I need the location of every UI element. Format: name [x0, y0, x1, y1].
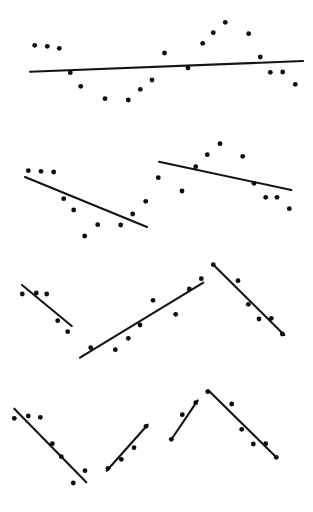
- data-point-3-11: [173, 312, 178, 317]
- data-point-3-14: [211, 262, 216, 267]
- data-point-3-8: [126, 336, 131, 341]
- data-point-3-5: [65, 329, 70, 334]
- data-point-4-13: [180, 412, 185, 417]
- data-point-2-4: [61, 196, 66, 201]
- data-point-1-10: [162, 51, 167, 56]
- data-point-2-13: [193, 164, 198, 169]
- data-point-2-14: [205, 152, 210, 157]
- data-point-4-12: [169, 437, 174, 442]
- data-point-2-19: [275, 195, 280, 200]
- data-point-4-19: [263, 441, 268, 446]
- data-point-2-15: [218, 141, 223, 146]
- data-point-4-5: [59, 454, 64, 459]
- data-point-4-7: [83, 468, 88, 473]
- data-point-2-17: [252, 181, 257, 186]
- data-point-4-1: [12, 416, 17, 421]
- data-point-1-9: [150, 78, 155, 83]
- data-point-3-18: [269, 316, 274, 321]
- data-point-3-10: [151, 298, 156, 303]
- data-point-4-18: [251, 442, 256, 447]
- data-point-1-11: [186, 66, 191, 71]
- data-point-4-16: [229, 402, 234, 407]
- data-point-1-13: [211, 30, 216, 35]
- data-point-1-2: [45, 44, 50, 49]
- data-point-3-19: [280, 332, 285, 337]
- data-point-2-6: [82, 234, 87, 239]
- data-point-2-1: [26, 168, 31, 173]
- data-point-3-13: [199, 276, 204, 281]
- figure-background: [0, 0, 313, 512]
- data-point-1-6: [103, 96, 108, 101]
- data-point-1-5: [78, 84, 83, 89]
- data-point-2-10: [143, 199, 148, 204]
- data-point-3-17: [257, 317, 262, 322]
- data-point-1-15: [246, 31, 251, 36]
- data-point-1-19: [293, 82, 298, 87]
- data-point-2-16: [240, 154, 245, 159]
- data-point-1-1: [32, 43, 37, 48]
- data-point-1-16: [258, 55, 263, 60]
- data-point-1-3: [57, 46, 62, 51]
- data-point-1-14: [223, 20, 228, 25]
- data-point-3-1: [20, 292, 25, 297]
- data-point-1-8: [138, 87, 143, 92]
- data-point-4-17: [239, 427, 244, 432]
- data-point-2-20: [287, 206, 292, 211]
- data-point-2-7: [95, 222, 100, 227]
- data-point-1-18: [280, 70, 285, 75]
- data-point-2-9: [130, 212, 135, 217]
- data-point-3-6: [88, 345, 93, 350]
- data-point-4-20: [274, 455, 279, 460]
- data-point-3-9: [138, 323, 143, 328]
- data-point-4-9: [119, 457, 124, 462]
- data-point-3-7: [113, 347, 118, 352]
- data-point-4-8: [106, 466, 111, 471]
- figure-canvas: [0, 0, 313, 512]
- data-point-2-11: [156, 175, 161, 180]
- data-point-4-6: [71, 481, 76, 486]
- data-point-1-7: [126, 98, 131, 103]
- data-point-2-5: [71, 208, 76, 213]
- data-point-3-3: [44, 292, 49, 297]
- data-point-4-14: [193, 400, 198, 405]
- data-point-2-3: [51, 170, 56, 175]
- data-point-4-15: [205, 389, 210, 394]
- data-point-3-12: [187, 287, 192, 292]
- data-point-2-12: [180, 189, 185, 194]
- data-point-1-4: [68, 70, 73, 75]
- data-point-4-4: [50, 441, 55, 446]
- scatter-panels-figure: [0, 0, 313, 512]
- data-point-2-18: [263, 195, 268, 200]
- data-point-2-8: [118, 223, 123, 228]
- data-point-4-3: [38, 415, 43, 420]
- data-point-3-16: [246, 302, 251, 307]
- data-point-2-2: [39, 169, 44, 174]
- data-point-4-10: [132, 445, 137, 450]
- data-point-3-15: [236, 278, 241, 283]
- data-point-4-2: [26, 414, 31, 419]
- data-point-3-4: [55, 318, 60, 323]
- data-point-4-11: [144, 424, 149, 429]
- data-point-1-12: [200, 41, 205, 46]
- data-point-1-17: [268, 70, 273, 75]
- data-point-3-2: [34, 291, 39, 296]
